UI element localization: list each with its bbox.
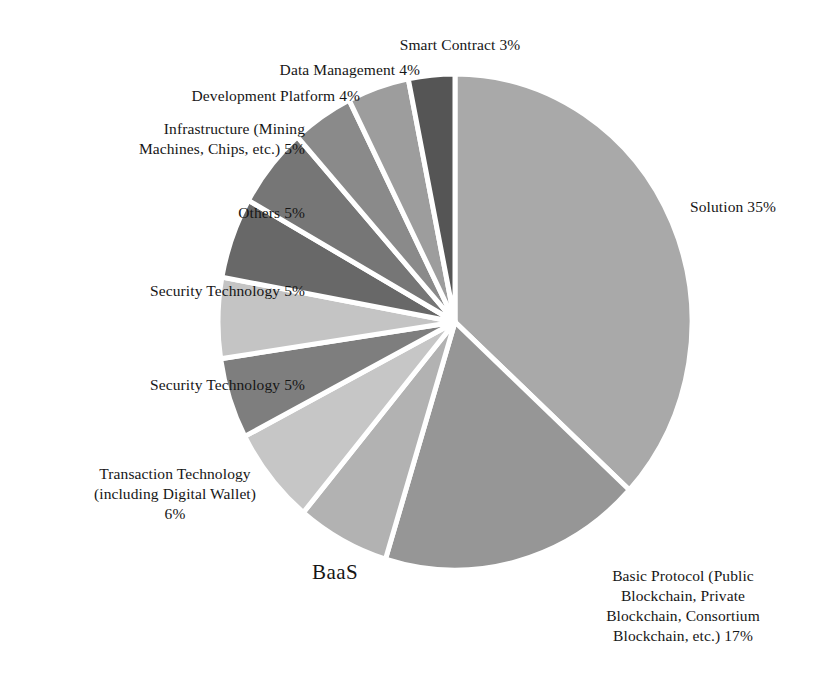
slice-label-basic-protocol: Basic Protocol (Public Blockchain, Priva… [548,566,818,647]
slice-label-infrastructure: Infrastructure (Mining Machines, Chips, … [85,119,305,159]
slice-label-data-management: Data Management 4% [230,60,420,80]
slice-label-security-technology-2: Security Technology 5% [25,375,305,395]
slice-label-development-platform: Development Platform 4% [150,86,360,106]
slice-label-security-technology-1: Security Technology 5% [25,281,305,301]
slice-label-others: Others 5% [140,203,305,223]
slice-label-transaction-technology: Transaction Technology (including Digita… [75,464,275,524]
slice-label-smart-contract: Smart Contract 3% [365,35,555,55]
pie-chart: Smart Contract 3% Data Management 4% Dev… [0,0,826,675]
slice-label-baas: BaaS [260,559,410,586]
slice-label-solution: Solution 35% [690,197,826,217]
